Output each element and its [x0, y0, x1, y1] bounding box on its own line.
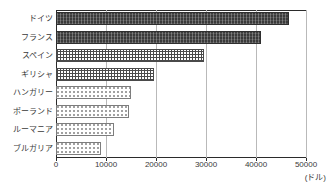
category-label: ドイツ [1, 14, 53, 24]
gridline-50000 [306, 10, 307, 158]
x-tick-label: 40000 [245, 160, 267, 170]
plot-area [56, 10, 306, 158]
category-axis-labels: ドイツフランススペインギリシャハンガリーポーランドルーマニアブルガリア [0, 10, 53, 158]
category-label: スペイン [1, 51, 53, 61]
x-tick-label: 20000 [145, 160, 167, 170]
x-axis-unit-label: (ドル) [268, 173, 326, 183]
category-label: ルーマニア [1, 125, 53, 135]
x-tick-label: 0 [54, 160, 58, 170]
x-tick-label: 50000 [295, 160, 317, 170]
bar-0 [56, 12, 289, 25]
bar-row [56, 66, 306, 84]
bar-row [56, 10, 306, 28]
bar-row [56, 29, 306, 47]
x-tick-label: 10000 [95, 160, 117, 170]
x-axis-tick-labels: 01000020000300004000050000 [56, 160, 306, 172]
x-tick-label: 30000 [195, 160, 217, 170]
category-label: ギリシャ [1, 70, 53, 80]
bar-series [56, 10, 306, 158]
category-label: フランス [1, 33, 53, 43]
category-label: ハンガリー [1, 88, 53, 98]
category-label: ブルガリア [1, 144, 53, 154]
bar-4 [56, 86, 131, 99]
bar-3 [56, 68, 154, 81]
bar-row [56, 103, 306, 121]
bar-7 [56, 142, 101, 155]
bar-row [56, 47, 306, 65]
category-label: ポーランド [1, 107, 53, 117]
bar-chart: ドイツフランススペインギリシャハンガリーポーランドルーマニアブルガリア 0100… [0, 0, 328, 189]
bar-2 [56, 49, 204, 62]
bar-1 [56, 31, 261, 44]
bar-6 [56, 123, 114, 136]
bar-row [56, 140, 306, 158]
bar-row [56, 84, 306, 102]
bar-row [56, 121, 306, 139]
bar-5 [56, 105, 129, 118]
